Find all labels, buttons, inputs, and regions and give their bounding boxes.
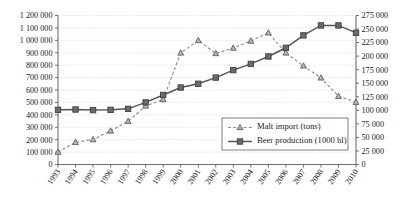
data-point-beer-production[interactable]	[143, 100, 148, 105]
data-point-beer-production[interactable]	[73, 107, 78, 112]
data-point-beer-production[interactable]	[125, 106, 130, 111]
right-axis-tick-label: 50 000	[362, 133, 385, 142]
right-axis-tick-label: 0	[362, 160, 366, 169]
legend-label-beer-production: Beer production (1000 hl)	[257, 135, 347, 145]
x-axis-tick-label: 2005	[256, 168, 273, 187]
right-axis-tick-label: 175 000	[362, 66, 389, 75]
x-axis-tick-label: 2010	[344, 168, 361, 187]
right-axis-tick-label: 100 000	[362, 106, 389, 115]
data-point-beer-production[interactable]	[266, 54, 271, 59]
x-axis-tick-label: 2001	[186, 168, 203, 187]
data-point-malt-import[interactable]	[108, 128, 114, 133]
dual-axis-line-chart: 0100 000200 000300 000400 000500 000600 …	[0, 0, 414, 208]
data-point-beer-production[interactable]	[196, 81, 201, 86]
left-axis-tick-label: 1 100 000	[20, 24, 53, 33]
left-axis-tick-label: 1 200 000	[20, 11, 53, 20]
left-axis-tick-label: 500 000	[26, 98, 53, 107]
data-point-beer-production[interactable]	[213, 75, 218, 80]
data-point-beer-production[interactable]	[353, 30, 358, 35]
data-point-beer-production[interactable]	[336, 23, 341, 28]
data-point-beer-production[interactable]	[108, 107, 113, 112]
left-axis-tick-label: 200 000	[26, 136, 53, 145]
x-axis-tick-label: 1995	[81, 168, 98, 187]
legend-marker-square-icon	[237, 139, 242, 144]
left-axis-tick-label: 400 000	[26, 111, 53, 120]
x-axis-tick-label: 2003	[221, 168, 238, 187]
x-axis-tick-label: 2002	[203, 168, 220, 187]
x-axis-tick-label: 2007	[291, 168, 308, 187]
right-axis-tick-label: 150 000	[362, 79, 389, 88]
data-point-malt-import[interactable]	[90, 136, 96, 141]
right-axis-tick-label: 275 000	[362, 11, 389, 20]
data-point-beer-production[interactable]	[248, 61, 253, 66]
x-axis-tick-label: 2000	[168, 168, 185, 187]
data-point-malt-import[interactable]	[265, 30, 271, 35]
data-point-beer-production[interactable]	[90, 107, 95, 112]
right-axis-tick-label: 125 000	[362, 93, 389, 102]
x-axis-tick-label: 2008	[308, 168, 325, 187]
data-point-beer-production[interactable]	[318, 23, 323, 28]
x-axis-tick-label: 2009	[326, 168, 343, 187]
x-axis-tick-label: 2004	[238, 168, 255, 187]
right-axis-tick-label: 200 000	[362, 52, 389, 61]
data-point-beer-production[interactable]	[55, 107, 60, 112]
right-axis-tick-label: 250 000	[362, 25, 389, 34]
left-axis-tick-label: 1 000 000	[20, 36, 53, 45]
left-axis-tick-label: 600 000	[26, 86, 53, 95]
left-axis-tick-label: 900 000	[26, 49, 53, 58]
data-point-beer-production[interactable]	[231, 67, 236, 72]
data-point-beer-production[interactable]	[283, 45, 288, 50]
x-axis-tick-label: 1993	[46, 168, 63, 187]
series-line-beer-production	[58, 25, 356, 110]
data-point-beer-production[interactable]	[301, 33, 306, 38]
x-axis-tick-label: 1997	[116, 168, 133, 187]
data-point-malt-import[interactable]	[195, 37, 201, 42]
left-axis-tick-label: 100 000	[26, 148, 53, 157]
x-axis-tick-label: 2006	[273, 168, 290, 187]
data-point-beer-production[interactable]	[178, 85, 183, 90]
data-point-malt-import[interactable]	[230, 45, 236, 50]
right-axis-tick-label: 225 000	[362, 38, 389, 47]
left-axis-tick-label: 0	[48, 160, 52, 169]
left-axis-tick-label: 800 000	[26, 61, 53, 70]
chart-container: 0100 000200 000300 000400 000500 000600 …	[0, 0, 414, 208]
x-axis-tick-label: 1994	[63, 168, 80, 187]
data-point-beer-production[interactable]	[160, 92, 165, 97]
x-axis-tick-label: 1996	[98, 168, 115, 187]
left-axis-tick-label: 700 000	[26, 73, 53, 82]
legend-label-malt-import: Malt import (tons)	[257, 121, 321, 131]
x-axis-tick-label: 1999	[151, 168, 168, 187]
x-axis-tick-label: 1998	[133, 168, 150, 187]
left-axis-tick-label: 300 000	[26, 123, 53, 132]
right-axis-tick-label: 75 000	[362, 120, 385, 129]
right-axis-tick-label: 25 000	[362, 147, 385, 156]
